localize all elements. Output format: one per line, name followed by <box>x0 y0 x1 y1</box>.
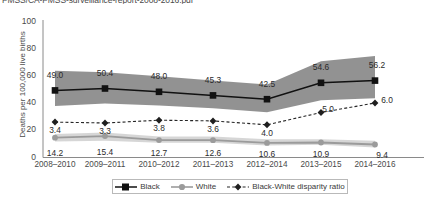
white-data-label: 12.6 <box>193 148 233 158</box>
white-data-label: 15.4 <box>85 147 125 157</box>
clipped-header-text: PMSS/CA-PMSS-surveillance-report-2008-20… <box>2 0 193 4</box>
black-data-label: 42.5 <box>247 79 287 89</box>
disparity-data-label: 3.6 <box>193 124 233 134</box>
legend-circle-marker-icon <box>171 182 193 192</box>
black-data-label: 54.6 <box>301 62 341 72</box>
x-tick-label: 2014–2016 <box>343 160 407 169</box>
chart-container: Deaths per 100,000 live births 100 80 60… <box>0 12 429 206</box>
disparity-data-label: 3.8 <box>139 123 179 133</box>
white-data-label: 10.9 <box>301 149 341 159</box>
black-data-label: 49.0 <box>35 70 75 80</box>
black-data-label: 48.0 <box>139 71 179 81</box>
plot-area <box>0 12 429 206</box>
disparity-data-label: 3.4 <box>35 125 75 135</box>
legend-item-disparity-ratio[interactable]: Black-White disparity ratio <box>227 182 344 192</box>
legend-diamond-marker-icon <box>227 182 249 192</box>
legend-item-white[interactable]: White <box>171 182 216 192</box>
legend-label-black: Black <box>140 182 160 191</box>
black-data-label: 56.2 <box>357 60 397 70</box>
legend-item-black[interactable]: Black <box>115 182 160 192</box>
disparity-data-label: 5.0 <box>308 104 348 114</box>
black-data-label: 45.3 <box>193 75 233 85</box>
white-data-label: 9.4 <box>362 150 402 160</box>
legend-label-disparity-ratio: Black-White disparity ratio <box>252 182 344 191</box>
disparity-data-label: 3.3 <box>85 126 125 136</box>
white-data-label: 14.2 <box>35 148 75 158</box>
chart-page: PMSS/CA-PMSS-surveillance-report-2008-20… <box>0 0 429 206</box>
legend-square-marker-icon <box>115 182 137 192</box>
legend-label-white: White <box>196 182 216 191</box>
black-data-label: 50.4 <box>85 68 125 78</box>
white-data-label: 10.6 <box>247 149 287 159</box>
chart-legend: Black White Black-White disparity ratio <box>112 179 348 194</box>
disparity-data-label: 4.0 <box>247 128 287 138</box>
white-data-label: 12.7 <box>139 148 179 158</box>
disparity-data-label: 6.0 <box>367 95 407 105</box>
